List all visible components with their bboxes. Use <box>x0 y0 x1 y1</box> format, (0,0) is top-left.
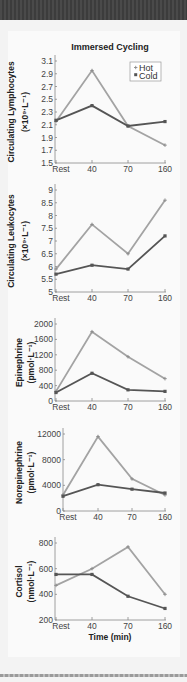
y-tick-label: 600 <box>39 564 53 574</box>
marker-square <box>90 372 93 375</box>
y-tick-label: 7.5 <box>41 223 53 233</box>
y-tick-label: 2.3 <box>41 107 53 117</box>
y-tick-label: 1200 <box>34 350 53 360</box>
chart-panel-4: 04000800012000Rest4070160Norepinephrine(… <box>14 428 172 522</box>
x-tick-label: 40 <box>93 512 103 522</box>
legend-cold-marker <box>134 73 137 76</box>
legend-cold-label: Cold <box>139 71 158 81</box>
y-axis-label: Cortisol <box>14 565 24 597</box>
y-axis-label: (nmol·L⁻¹) <box>26 560 36 602</box>
x-tick-label: 40 <box>87 621 97 631</box>
marker-square <box>61 495 64 498</box>
y-tick-label: 6.5 <box>41 249 53 259</box>
x-tick-label: 160 <box>158 621 172 631</box>
x-tick-label: 160 <box>158 512 172 522</box>
y-axis-label: (×10⁹·L⁻¹) <box>20 92 30 132</box>
marker-square <box>90 264 93 267</box>
marker-square <box>96 483 99 486</box>
y-tick-label: 8000 <box>42 455 61 465</box>
x-tick-label: 70 <box>123 164 133 174</box>
x-tick-label: Rest <box>59 512 77 522</box>
y-tick-label: 1.7 <box>41 145 53 155</box>
y-tick-label: 2.5 <box>41 94 53 104</box>
legend: HotCold <box>130 62 161 81</box>
x-axis-label: Time (min) <box>89 632 132 642</box>
marker-square <box>126 595 129 598</box>
y-axis-label: (pmol·L⁻¹) <box>26 451 36 493</box>
y-tick-label: 2000 <box>34 319 53 329</box>
marker-square <box>163 234 166 237</box>
y-tick-label: 8.5 <box>41 198 53 208</box>
y-tick-label: 3.1 <box>41 56 53 66</box>
marker-square <box>126 124 129 127</box>
x-tick-label: 40 <box>87 293 97 303</box>
x-tick-label: 40 <box>87 164 97 174</box>
x-tick-label: Rest <box>52 293 70 303</box>
marker-square <box>126 388 129 391</box>
immersed-cycling-figure: Immersed Cycling1.51.71.92.12.32.52.72.9… <box>0 0 187 682</box>
marker-square <box>130 488 133 491</box>
series-line-hot <box>56 547 165 594</box>
y-tick-label: 5.5 <box>41 274 53 284</box>
chart-title: Immersed Cycling <box>71 42 149 52</box>
y-tick-label: 2.9 <box>41 69 53 79</box>
y-tick-label: 800 <box>39 538 53 548</box>
y-axis-label: Norepinephrine <box>14 441 24 504</box>
marker-square <box>54 391 57 394</box>
series-line-hot <box>56 71 165 146</box>
y-tick-label: 200 <box>39 615 53 625</box>
x-tick-label: 160 <box>158 164 172 174</box>
y-tick-label: 4000 <box>42 480 61 490</box>
chart-panel-2: 55.566.577.588.59Rest4070160Circulating … <box>6 184 172 303</box>
y-axis-label: Circulating Lymphocytes <box>6 61 16 163</box>
y-axis-label: Epinephrine <box>14 338 24 387</box>
y-axis-label: Circulating Leukocytes <box>6 194 16 288</box>
y-tick-label: 1600 <box>34 334 53 344</box>
marker-square <box>163 120 166 123</box>
y-tick-label: 400 <box>39 381 53 391</box>
x-tick-label: 40 <box>87 402 97 412</box>
y-tick-label: 1.9 <box>41 133 53 143</box>
y-tick-label: 400 <box>39 589 53 599</box>
x-tick-label: 70 <box>123 293 133 303</box>
y-tick-label: 800 <box>39 365 53 375</box>
x-tick-label: Rest <box>52 164 70 174</box>
marker-square <box>54 273 57 276</box>
y-tick-label: 2.7 <box>41 82 53 92</box>
x-tick-label: Rest <box>52 621 70 631</box>
x-tick-label: 70 <box>123 402 133 412</box>
series-line-cold <box>56 106 165 126</box>
chart-panel-3: 0400800120016002000Rest4070160Epinephrin… <box>14 318 172 412</box>
marker-square <box>54 573 57 576</box>
series-line-hot <box>56 200 165 269</box>
y-tick-label: 12000 <box>37 429 61 439</box>
y-axis-label: (×10⁹·L⁻¹) <box>20 221 30 261</box>
x-tick-label: 70 <box>127 512 137 522</box>
y-tick-label: 6 <box>48 262 53 272</box>
x-tick-label: 160 <box>158 293 172 303</box>
chart-panel-1: Immersed Cycling1.51.71.92.12.32.52.72.9… <box>6 42 172 174</box>
marker-square <box>163 491 166 494</box>
marker-square <box>54 119 57 122</box>
marker-square <box>163 390 166 393</box>
y-tick-label: 8 <box>48 211 53 221</box>
x-tick-label: 70 <box>123 621 133 631</box>
marker-square <box>90 104 93 107</box>
y-tick-label: 2.1 <box>41 120 53 130</box>
marker-square <box>163 607 166 610</box>
marker-square <box>126 267 129 270</box>
y-tick-label: 7 <box>48 236 53 246</box>
series-line-cold <box>56 373 165 392</box>
series-line-cold <box>56 236 165 274</box>
chart-panel-5: 200400600800Rest4070160Cortisol(nmol·L⁻¹… <box>14 537 172 642</box>
series-line-cold <box>63 485 165 497</box>
y-axis-label: (pmol·L⁻¹) <box>26 341 36 383</box>
x-tick-label: Rest <box>52 402 70 412</box>
y-tick-label: 9 <box>48 185 53 195</box>
marker-square <box>90 573 93 576</box>
x-tick-label: 160 <box>158 402 172 412</box>
series-line-cold <box>56 574 165 608</box>
